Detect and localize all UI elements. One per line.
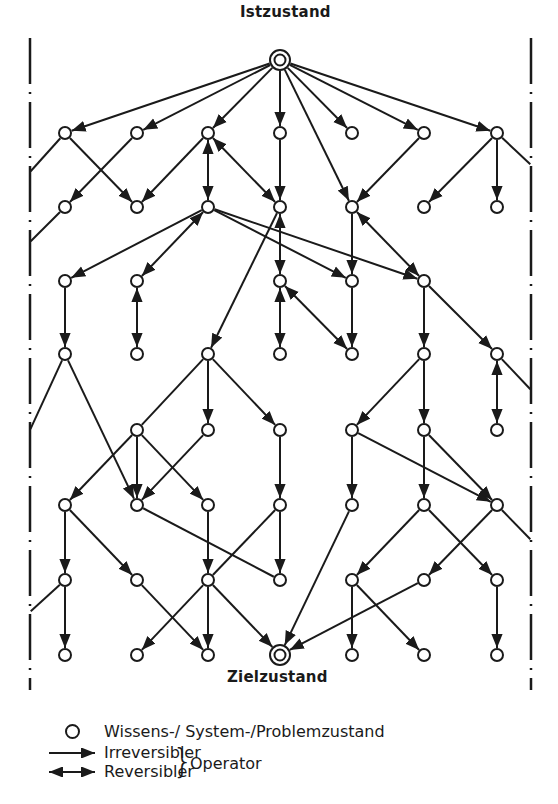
goal-state-node-inner xyxy=(275,650,286,661)
irreversible-operator-edge xyxy=(357,359,419,425)
irreversible-operator-edge xyxy=(357,510,419,575)
state-node xyxy=(491,127,503,139)
state-node xyxy=(59,275,71,287)
irreversible-operator-edge xyxy=(143,65,270,130)
state-node xyxy=(346,499,358,511)
irreversible-operator-edge xyxy=(429,138,492,202)
state-node xyxy=(202,424,214,436)
connector-edge xyxy=(30,360,62,429)
legend-operator-label: Operator xyxy=(190,754,262,773)
state-node xyxy=(202,499,214,511)
state-node xyxy=(418,201,430,213)
state-node xyxy=(418,649,430,661)
legend-state-label: Wissens-/ System-/Problemzustand xyxy=(104,722,385,741)
state-node xyxy=(131,574,143,586)
irreversible-operator-edge xyxy=(429,435,492,500)
connector-edge xyxy=(502,359,531,389)
state-node xyxy=(346,275,358,287)
irreversible-operator-edge xyxy=(142,138,203,202)
irreversible-operator-edge xyxy=(213,68,272,128)
state-node xyxy=(346,649,358,661)
legend: Wissens-/ System-/Problemzustand xyxy=(40,722,385,741)
state-node xyxy=(131,348,143,360)
state-node xyxy=(274,348,286,360)
connector-edge xyxy=(502,138,530,165)
state-node xyxy=(418,348,430,360)
state-node xyxy=(131,499,143,511)
irreversible-operator-edge xyxy=(213,585,273,647)
state-node xyxy=(131,424,143,436)
start-state-label: Istzustand xyxy=(240,3,331,21)
state-node xyxy=(131,201,143,213)
state-node xyxy=(491,649,503,661)
state-node xyxy=(346,424,358,436)
state-node xyxy=(202,348,214,360)
state-node xyxy=(59,649,71,661)
connector-edge xyxy=(31,585,60,612)
state-circle-icon xyxy=(65,724,80,739)
state-node xyxy=(202,649,214,661)
state-node xyxy=(131,275,143,287)
reversible-operator-edge xyxy=(213,138,275,202)
connector-edge xyxy=(142,359,203,425)
state-node xyxy=(418,499,430,511)
irreversible-operator-edge xyxy=(290,64,490,131)
irreversible-operator-edge xyxy=(429,286,492,349)
state-node xyxy=(274,424,286,436)
state-node xyxy=(346,127,358,139)
state-node xyxy=(274,574,286,586)
irreversible-operator-edge xyxy=(357,138,419,202)
legend-state-row: Wissens-/ System-/Problemzustand xyxy=(40,722,385,741)
connector-edge xyxy=(213,510,275,575)
irreversible-operator-edge xyxy=(70,435,132,500)
state-node xyxy=(59,348,71,360)
state-node xyxy=(59,127,71,139)
reversible-operator-edge xyxy=(285,286,347,349)
state-node xyxy=(491,574,503,586)
irreversible-operator-edge xyxy=(357,585,419,650)
state-node xyxy=(274,499,286,511)
start-state-node-inner xyxy=(275,55,286,66)
connector-edge xyxy=(502,510,530,539)
connector-edge xyxy=(31,212,60,241)
state-node xyxy=(59,499,71,511)
state-node xyxy=(491,499,503,511)
state-node xyxy=(418,574,430,586)
state-node xyxy=(202,201,214,213)
state-node xyxy=(491,348,503,360)
state-node xyxy=(418,275,430,287)
state-node xyxy=(59,201,71,213)
irreversible-arrow-icon xyxy=(47,748,97,758)
state-node xyxy=(131,127,143,139)
state-node xyxy=(202,127,214,139)
reversible-operator-edge xyxy=(142,212,203,276)
state-node xyxy=(131,649,143,661)
irreversible-operator-edge xyxy=(211,213,277,347)
state-node xyxy=(491,201,503,213)
state-node xyxy=(202,574,214,586)
irreversible-operator-edge xyxy=(68,360,134,498)
state-node xyxy=(274,201,286,213)
state-node xyxy=(346,574,358,586)
reversible-arrow-icon xyxy=(47,767,97,777)
irreversible-operator-edge xyxy=(71,210,202,278)
state-node xyxy=(59,574,71,586)
state-node xyxy=(346,348,358,360)
irreversible-operator-edge xyxy=(72,64,270,131)
irreversible-operator-edge xyxy=(213,359,275,425)
reversible-operator-edge xyxy=(357,212,419,276)
state-node xyxy=(491,424,503,436)
state-node xyxy=(418,424,430,436)
irreversible-operator-edge xyxy=(288,68,347,128)
state-node xyxy=(274,127,286,139)
connector-edge xyxy=(31,138,61,171)
state-node xyxy=(346,201,358,213)
state-node xyxy=(274,275,286,287)
goal-state-label: Zielzustand xyxy=(227,668,328,686)
state-node xyxy=(418,127,430,139)
irreversible-operator-edge xyxy=(70,510,132,575)
